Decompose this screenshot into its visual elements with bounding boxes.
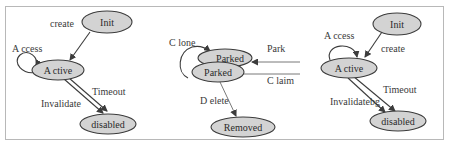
svg-text:A ctive: A ctive: [335, 63, 364, 74]
label-claim: C laim: [267, 75, 294, 86]
node-init[interactable]: Init: [373, 13, 421, 35]
label-access: A ccess: [12, 43, 42, 54]
svg-text:disabled: disabled: [381, 116, 414, 127]
node-disabled[interactable]: disabled: [80, 114, 136, 134]
label-access: A ccess: [324, 30, 354, 41]
node-removed[interactable]: Removed: [211, 117, 275, 137]
edge-create: [70, 32, 90, 60]
label-clone: C lone: [169, 37, 196, 48]
label-park: Park: [267, 43, 285, 54]
svg-text:Init: Init: [100, 17, 114, 28]
label-invalidate: Invalidatebg: [330, 96, 380, 107]
label-timeout: Timeout: [92, 86, 126, 97]
label-create: create: [381, 43, 405, 54]
label-delete: D elete: [200, 95, 229, 106]
right-diagram: Init A ctive disabled A ccess create Inv…: [321, 13, 426, 131]
label-create: create: [50, 18, 74, 29]
left-diagram: Init A ctive disabled create A ccess Inv…: [12, 11, 136, 134]
svg-text:A ctive: A ctive: [44, 65, 73, 76]
svg-text:Parked: Parked: [204, 67, 232, 78]
svg-text:Removed: Removed: [224, 122, 262, 133]
node-active[interactable]: A ctive: [321, 58, 377, 78]
node-parked-front[interactable]: Parked: [192, 62, 244, 82]
node-init[interactable]: Init: [82, 11, 132, 33]
label-timeout: Timeout: [383, 84, 417, 95]
edge-create: [365, 32, 382, 57]
svg-text:disabled: disabled: [91, 119, 124, 130]
state-diagram: Init A ctive disabled create A ccess Inv…: [0, 0, 450, 146]
node-active[interactable]: A ctive: [32, 60, 84, 80]
node-disabled[interactable]: disabled: [370, 111, 426, 131]
svg-text:Init: Init: [390, 19, 404, 30]
label-invalidate: Invalidate: [41, 98, 82, 109]
middle-diagram: Parked Parked Removed C lone Park C laim…: [169, 37, 300, 137]
